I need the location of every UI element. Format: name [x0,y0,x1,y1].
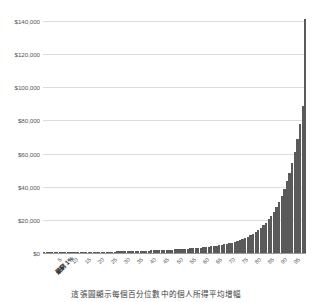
bar-series [43,21,306,253]
x-axis-tick-label: 55 [188,256,197,265]
x-axis-tick-label: 95 [292,256,301,265]
chart-container: $0$20,000$40,000$60,000$80,000$100,000$1… [0,0,313,302]
x-axis-tick-label: 35 [136,256,145,265]
y-axis-tick-label: $60,000 [0,150,40,157]
y-axis-tick-label: $20,000 [0,216,40,223]
x-axis-tick-label: 70 [227,256,236,265]
y-axis-tick-label: $0 [0,250,40,257]
chart-caption: 這張圖顯示每個百分位數中的個人所得平均增幅 [0,288,313,299]
x-axis-tick-label: 75 [240,256,249,265]
x-axis-tick-label: 30 [123,256,132,265]
x-axis-tick-label: 80 [253,256,262,265]
x-axis-tick-label: 50 [175,256,184,265]
x-axis: 5101520253035404550556065707580859095最窮 … [43,253,306,283]
x-axis-tick-label: 15 [84,256,93,265]
y-axis-tick-label: $40,000 [0,183,40,190]
x-axis-tick-label: 65 [214,256,223,265]
x-axis-tick-label: 40 [149,256,158,265]
x-axis-tick-label: 85 [266,256,275,265]
x-axis-tick-label: 90 [279,256,288,265]
x-axis-tick-label: 60 [201,256,210,265]
x-axis-tick-label: 20 [97,256,106,265]
plot-area [43,21,306,253]
bar [304,19,306,253]
y-axis-tick-label: $140,000 [0,18,40,25]
x-axis-tick-label: 25 [110,256,119,265]
y-axis-tick-label: $120,000 [0,51,40,58]
y-axis-tick-label: $100,000 [0,84,40,91]
y-axis-tick-label: $80,000 [0,117,40,124]
x-axis-tick-label: 45 [162,256,171,265]
